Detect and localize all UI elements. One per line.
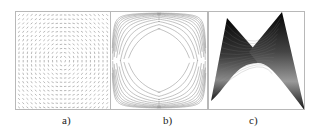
panel-c-label: c) (249, 115, 258, 126)
vector-field-plot (16, 12, 110, 109)
panel-b-contour-plot (110, 11, 208, 110)
panel-c-saddle-surface (208, 11, 305, 110)
panel-b-label: b) (163, 115, 172, 126)
saddle-surface-plot (209, 12, 304, 109)
contour-plot (111, 12, 207, 109)
panel-a-vector-field (15, 11, 111, 110)
panel-a-label: a) (62, 115, 71, 126)
